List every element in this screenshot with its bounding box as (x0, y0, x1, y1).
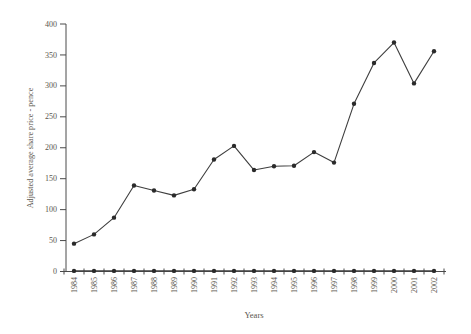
y-axis-title: Adjusted average share price - pence (26, 87, 35, 208)
y-tick-label: 300 (45, 81, 57, 90)
data-point-flat-series-near-zero (92, 269, 96, 273)
data-point-flat-series-near-zero (432, 269, 436, 273)
data-point-flat-series-near-zero (232, 269, 236, 273)
data-point-adjusted-average-share-price (372, 61, 376, 65)
x-tick-label: 1990 (190, 277, 199, 293)
data-point-flat-series-near-zero (292, 269, 296, 273)
data-point-adjusted-average-share-price (252, 168, 256, 172)
y-tick-label: 250 (45, 112, 57, 121)
x-tick-label: 1995 (290, 277, 299, 293)
data-point-flat-series-near-zero (412, 269, 416, 273)
x-tick-label: 1988 (150, 277, 159, 293)
data-point-flat-series-near-zero (272, 269, 276, 273)
data-point-flat-series-near-zero (372, 269, 376, 273)
data-point-adjusted-average-share-price (412, 81, 416, 85)
data-point-flat-series-near-zero (312, 269, 316, 273)
data-point-adjusted-average-share-price (292, 163, 296, 167)
x-tick-label: 1985 (90, 277, 99, 293)
x-tick-label: 1993 (250, 277, 259, 293)
x-tick-label: 1992 (230, 277, 239, 293)
data-point-adjusted-average-share-price (212, 157, 216, 161)
data-point-adjusted-average-share-price (352, 102, 356, 106)
chart-canvas: 050100150200250300350400 198419851986198… (0, 0, 471, 334)
y-tick-label: 50 (49, 236, 57, 245)
y-tick-label: 100 (45, 205, 57, 214)
y-tick-label: 200 (45, 143, 57, 152)
x-tick-label: 1998 (350, 277, 359, 293)
y-tick-label: 0 (53, 267, 57, 276)
data-point-flat-series-near-zero (252, 269, 256, 273)
x-tick-label: 1999 (370, 277, 379, 293)
data-point-adjusted-average-share-price (312, 150, 316, 154)
data-point-adjusted-average-share-price (332, 160, 336, 164)
y-tick-label: 400 (45, 20, 57, 29)
y-tick-label: 150 (45, 174, 57, 183)
data-point-flat-series-near-zero (132, 269, 136, 273)
data-point-flat-series-near-zero (212, 269, 216, 273)
data-point-adjusted-average-share-price (92, 232, 96, 236)
x-tick-label: 1987 (130, 277, 139, 293)
data-point-adjusted-average-share-price (392, 40, 396, 44)
data-point-flat-series-near-zero (152, 269, 156, 273)
data-point-flat-series-near-zero (352, 269, 356, 273)
data-point-adjusted-average-share-price (432, 49, 436, 53)
data-point-adjusted-average-share-price (152, 188, 156, 192)
x-tick-label: 2000 (390, 277, 399, 293)
data-point-adjusted-average-share-price (72, 241, 76, 245)
x-tick-label: 1996 (310, 277, 319, 293)
x-tick-label: 2002 (430, 277, 439, 293)
data-point-adjusted-average-share-price (192, 187, 196, 191)
data-point-adjusted-average-share-price (272, 164, 276, 168)
x-tick-label: 1989 (170, 277, 179, 293)
x-tick-label: 1997 (330, 277, 339, 293)
series-line-adjusted-average-share-price (74, 43, 434, 244)
data-point-adjusted-average-share-price (112, 215, 116, 219)
data-point-adjusted-average-share-price (232, 144, 236, 148)
x-tick-label: 2001 (410, 277, 419, 293)
x-tick-label: 1994 (270, 277, 279, 293)
data-point-flat-series-near-zero (392, 269, 396, 273)
x-tick-label: 1991 (210, 277, 219, 293)
data-point-adjusted-average-share-price (172, 193, 176, 197)
series-group (72, 40, 436, 273)
data-point-flat-series-near-zero (112, 269, 116, 273)
y-axis: 050100150200250300350400 (45, 20, 66, 277)
data-point-flat-series-near-zero (72, 269, 76, 273)
x-tick-label: 1984 (70, 277, 79, 293)
data-point-flat-series-near-zero (192, 269, 196, 273)
x-tick-label: 1986 (110, 277, 119, 293)
data-point-adjusted-average-share-price (132, 183, 136, 187)
data-point-flat-series-near-zero (332, 269, 336, 273)
line-chart: 050100150200250300350400 198419851986198… (0, 0, 471, 334)
x-axis-title: Years (244, 310, 264, 320)
y-tick-label: 350 (45, 51, 57, 60)
data-point-flat-series-near-zero (172, 269, 176, 273)
